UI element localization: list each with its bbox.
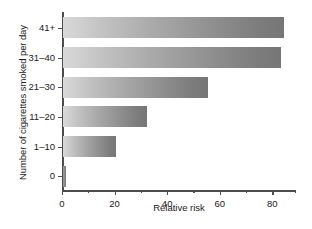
x-minor-tick-10 <box>88 190 89 193</box>
y-tick-11-20 <box>58 117 63 118</box>
y-tick-0 <box>58 176 63 177</box>
x-tick-20 <box>115 190 116 195</box>
y-tick-1-10 <box>58 147 63 148</box>
plot-area: 41+31–4021–3011–201–100 020406080 <box>62 12 296 190</box>
y-tick-label-21-30: 21–30 <box>15 81 55 92</box>
y-tick-label-11-20: 11–20 <box>15 111 55 122</box>
bar-31-40 <box>63 47 281 68</box>
bar-41+ <box>63 17 284 38</box>
y-tick-41+ <box>58 28 63 29</box>
x-tick-40 <box>167 190 168 195</box>
x-minor-tick-50 <box>193 190 194 193</box>
bar-chart-figure: Number of cigarettes smoked per day 41+3… <box>0 0 312 229</box>
x-axis-title: Relative risk <box>62 202 296 213</box>
y-tick-31-40 <box>58 58 63 59</box>
y-axis-line <box>62 12 64 190</box>
bar-fill <box>63 136 116 157</box>
x-minor-tick-30 <box>141 190 142 193</box>
bar-fill <box>63 77 208 98</box>
bar-fill <box>63 17 284 38</box>
bar-21-30 <box>63 77 208 98</box>
bar-fill <box>63 106 147 127</box>
y-tick-21-30 <box>58 87 63 88</box>
x-axis-line <box>62 190 296 192</box>
y-tick-label-1-10: 1–10 <box>15 141 55 152</box>
bar-0 <box>63 166 66 187</box>
y-tick-label-31-40: 31–40 <box>15 52 55 63</box>
bar-fill <box>63 166 66 187</box>
x-tick-80 <box>272 190 273 195</box>
x-axis-end-tick <box>295 190 296 193</box>
y-tick-label-0: 0 <box>15 170 55 181</box>
bar-1-10 <box>63 136 116 157</box>
x-tick-0 <box>62 190 63 195</box>
bar-11-20 <box>63 106 147 127</box>
y-tick-label-41+: 41+ <box>15 22 55 33</box>
bar-fill <box>63 47 281 68</box>
x-tick-60 <box>220 190 221 195</box>
x-minor-tick-70 <box>246 190 247 193</box>
y-axis-title: Number of cigarettes smoked per day <box>17 8 28 198</box>
